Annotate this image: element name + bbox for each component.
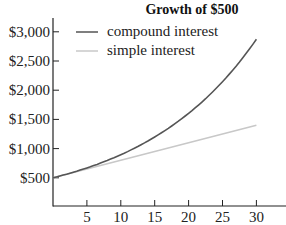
y-tick-label: $3,000 bbox=[9, 24, 50, 40]
x-ticks: 51015202530 bbox=[83, 200, 264, 225]
x-tick-label: 10 bbox=[113, 209, 128, 225]
y-tick-label: $500 bbox=[20, 170, 50, 186]
chart-title: Growth of $500 bbox=[145, 2, 238, 17]
x-tick-label: 30 bbox=[249, 209, 264, 225]
compound-interest-line bbox=[53, 39, 256, 178]
y-tick-label: $2,000 bbox=[9, 82, 50, 98]
x-tick-label: 20 bbox=[181, 209, 196, 225]
legend-label-compound: compound interest bbox=[107, 23, 219, 39]
x-tick-label: 5 bbox=[83, 209, 91, 225]
legend: compound interest simple interest bbox=[76, 23, 219, 58]
y-tick-label: $1,000 bbox=[9, 141, 50, 157]
y-ticks: $500$1,000$1,500$2,000$2,500$3,000 bbox=[9, 24, 59, 186]
chart: Growth of $500 $500$1,000$1,500$2,000$2,… bbox=[0, 0, 286, 225]
simple-interest-line bbox=[53, 125, 256, 178]
series-lines bbox=[53, 39, 256, 178]
x-tick-label: 15 bbox=[147, 209, 162, 225]
y-tick-label: $1,500 bbox=[9, 111, 50, 127]
x-tick-label: 25 bbox=[215, 209, 230, 225]
y-tick-label: $2,500 bbox=[9, 53, 50, 69]
legend-label-simple: simple interest bbox=[107, 42, 196, 58]
